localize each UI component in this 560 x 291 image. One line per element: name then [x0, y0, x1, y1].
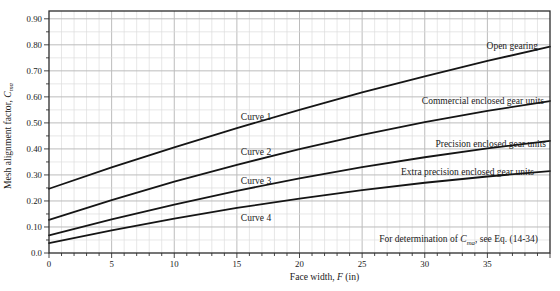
curve-1-label: Curve 1	[241, 112, 272, 122]
series-label-4: Extra precision enclosed gear units	[401, 167, 534, 177]
series-label-3: Precision enclosed gear units	[435, 139, 546, 149]
y-tick-label: 0.50	[27, 118, 43, 128]
y-tick-label: 0.40	[27, 144, 43, 154]
series-label-2: Commercial enclosed gear units	[422, 96, 544, 106]
y-tick-label: 0.20	[27, 196, 43, 206]
mesh-alignment-factor-figure: 051015202530350.00.100.200.300.400.500.6…	[0, 0, 560, 291]
y-tick-label: 0.70	[27, 66, 43, 76]
y-tick-label: 0.60	[27, 92, 43, 102]
x-tick-label: 10	[170, 259, 179, 269]
x-tick-label: 15	[232, 259, 241, 269]
x-tick-label: 5	[109, 259, 114, 269]
y-tick-label: 0.80	[27, 40, 43, 50]
x-tick-label: 25	[358, 259, 367, 269]
y-axis-title: Mesh alignment factor, Cma	[2, 82, 14, 189]
curve-4-label: Curve 4	[241, 213, 272, 223]
y-tick-label: 0.90	[27, 14, 43, 24]
x-axis-title: Face width, F (in)	[290, 271, 359, 283]
x-tick-label: 20	[295, 259, 304, 269]
curve-3-label: Curve 3	[241, 176, 272, 186]
x-tick-label: 0	[47, 259, 52, 269]
series-label-1: Open gearing	[487, 41, 539, 51]
x-tick-label: 35	[483, 259, 492, 269]
cma-vs-face-width-chart: 051015202530350.00.100.200.300.400.500.6…	[0, 0, 560, 291]
equation-note: For determination of Cma, see Eq. (14-34…	[379, 234, 538, 245]
x-tick-label: 30	[420, 259, 429, 269]
y-tick-label: 0.0	[31, 248, 43, 258]
y-tick-label: 0.30	[27, 170, 43, 180]
curve-2-label: Curve 2	[241, 147, 272, 157]
y-tick-label: 0.10	[27, 222, 43, 232]
